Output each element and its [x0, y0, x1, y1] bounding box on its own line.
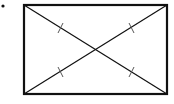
- tick-mark-lower-right: [129, 67, 134, 77]
- rectangle-diagonals-diagram: [0, 0, 174, 104]
- tick-mark-upper-left: [58, 23, 63, 33]
- bullet-dot: [1, 4, 4, 7]
